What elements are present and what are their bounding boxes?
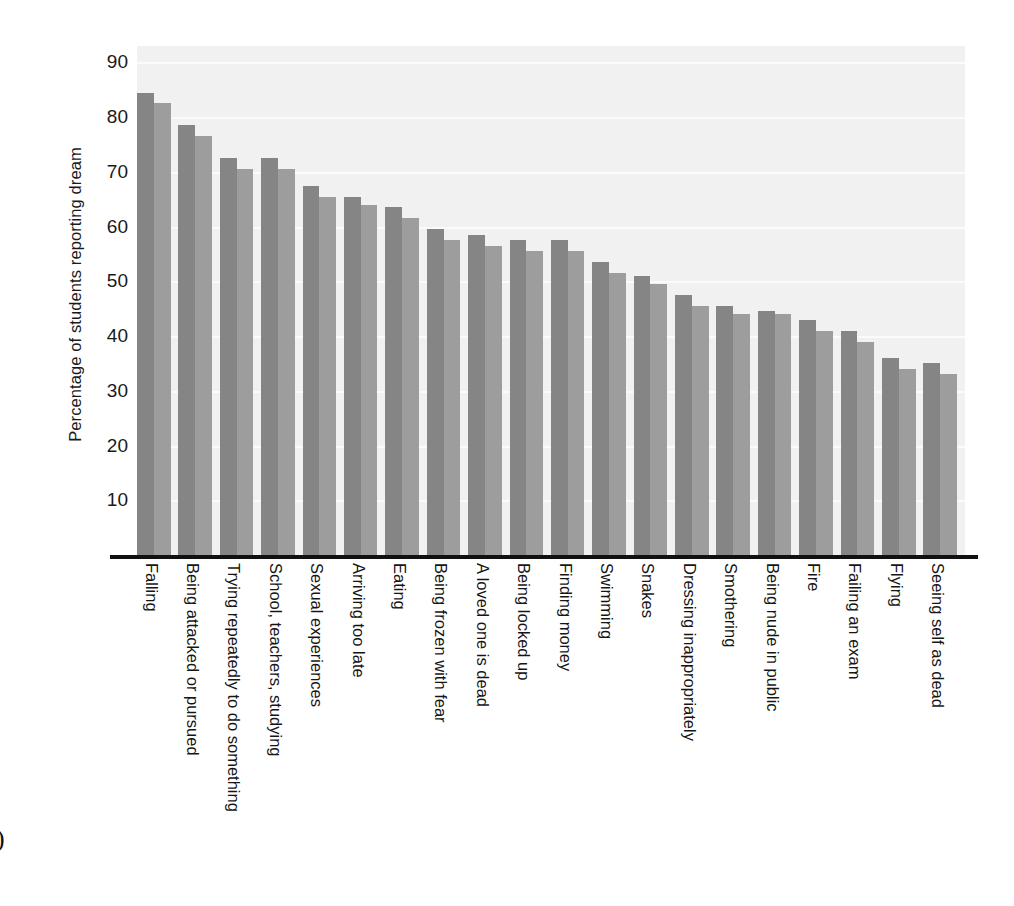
x-axis-tick-label: Swimming [598,563,615,639]
x-axis-tick-label: Seeing self as dead [930,563,947,708]
bar-group [427,46,468,555]
bar-group [882,46,923,555]
bar [427,229,444,555]
bar-groups [137,46,965,555]
x-axis-tick-label: Finding money [557,563,574,671]
bar-group [799,46,840,555]
x-axis-tick-label: Sexual experiences [309,563,326,707]
y-axis-tick-label: 30 [88,380,128,402]
scan-artifact-mark: ) [0,826,5,852]
bar [485,246,502,555]
x-axis-tick-label: A loved one is dead [474,563,491,707]
bar-group [551,46,592,555]
bar-group [923,46,964,555]
bar-group [592,46,633,555]
bar-group [468,46,509,555]
y-axis-tick-label: 80 [88,106,128,128]
x-axis-tick-label: Fire [805,563,822,591]
bar [841,331,858,555]
bar-group [178,46,219,555]
bar [940,374,957,555]
y-axis-tick-label: 20 [88,435,128,457]
bar [857,342,874,555]
bar [154,103,171,555]
y-axis-tick-label: 50 [88,270,128,292]
bar-group [510,46,551,555]
bar [551,240,568,555]
bar [692,306,709,555]
x-axis-tick-labels: FallingBeing attacked or pursuedTrying r… [137,563,965,863]
y-axis-tick-label: 10 [88,489,128,511]
bar-group [716,46,757,555]
bar-group [675,46,716,555]
bar-group [303,46,344,555]
bar [592,262,609,555]
bar [882,358,899,555]
bar-group [634,46,675,555]
bar [526,251,543,555]
bar [510,240,527,555]
bar [716,306,733,555]
bar [361,205,378,555]
bar [178,125,195,555]
bar [650,284,667,555]
x-axis-tick-label: Snakes [640,563,657,618]
bar-group [261,46,302,555]
bar [261,158,278,555]
x-axis-tick-label: Arriving too late [350,563,367,678]
x-axis-tick-label: Eating [391,563,408,610]
x-axis-tick-label: School, teachers, studying [267,563,284,757]
y-axis-title: Percentage of students reporting dream [66,85,85,505]
bar-group [385,46,426,555]
x-axis-tick-label: Failing an exam [847,563,864,679]
bar [899,369,916,555]
bar [220,158,237,555]
bar [758,311,775,555]
bar [319,197,336,555]
bar [675,295,692,555]
x-axis-tick-label: Trying repeatedly to do something [226,563,243,812]
x-axis-tick-label: Being nude in public [764,563,781,712]
bar [237,169,254,555]
bar-chart-figure: ) Percentage of students reporting dream… [0,0,1014,906]
plot-area [137,46,965,555]
bar [344,197,361,555]
bar-group [137,46,178,555]
x-axis-tick-label: Smothering [723,563,740,647]
x-axis-tick-label: Being locked up [516,563,533,680]
bar [195,136,212,555]
bar [609,273,626,555]
bar [444,240,461,555]
y-axis-tick-label: 90 [88,51,128,73]
bar-group [758,46,799,555]
bar [137,93,154,555]
bar [303,186,320,555]
bar [385,207,402,555]
bar-group [344,46,385,555]
bar [775,314,792,555]
bar [402,218,419,555]
bar [634,276,651,555]
bar [733,314,750,555]
bar [923,363,940,555]
y-axis-tick-label: 40 [88,325,128,347]
x-axis-tick-label: Being frozen with fear [433,563,450,723]
y-axis-tick-label: 70 [88,161,128,183]
y-axis-tick-labels: 102030405060708090 [88,0,128,906]
bar-group [841,46,882,555]
bar-group [220,46,261,555]
bar [278,169,295,555]
x-axis-tick-label: Flying [888,563,905,607]
x-axis-line [110,555,978,559]
y-axis-tick-label: 60 [88,216,128,238]
bar [468,235,485,555]
bar [816,331,833,555]
x-axis-tick-label: Falling [143,563,160,612]
bar [799,320,816,555]
bar [568,251,585,555]
x-axis-tick-label: Being attacked or pursued [184,563,201,756]
x-axis-tick-label: Dressing inappropriately [681,563,698,741]
